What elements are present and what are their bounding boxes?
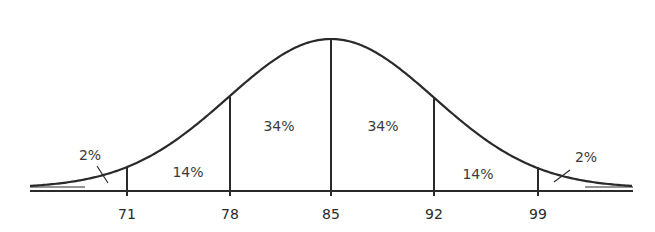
label-seg-78-85: 34% [263, 118, 294, 134]
label-seg-92-99: 14% [462, 166, 493, 182]
tick-99: 99 [529, 206, 547, 222]
tick-71: 71 [118, 206, 136, 222]
label-seg-85-92: 34% [367, 118, 398, 134]
right-tail-pointer [554, 170, 570, 182]
tick-85: 85 [322, 206, 340, 222]
bell-curve-chart [0, 0, 655, 232]
label-seg-71-78: 14% [172, 164, 203, 180]
label-right-tail: 2% [575, 149, 597, 165]
tick-78: 78 [221, 206, 239, 222]
tick-92: 92 [425, 206, 443, 222]
label-left-tail: 2% [79, 147, 101, 163]
